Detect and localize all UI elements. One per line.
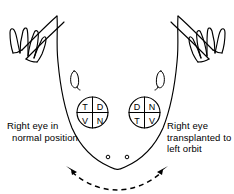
frog-eye-transplant-figure: T D V N D N T V Right [0,0,234,194]
right-forelimb [171,16,225,62]
rotation-arrow-head-left [66,166,77,175]
eye-normal-quadrant-bottom-right: N [97,116,104,126]
eye-transplanted-quadrant-top-left: D [134,102,141,112]
caption-transplanted-line-3: left orbit [167,143,231,155]
left-forelimb [10,16,64,62]
caption-normal-line-1: Right eye in [7,120,78,132]
caption-normal-line-2: normal position [7,132,78,144]
eye-transplanted-quadrant-top-right: N [149,102,156,112]
eye-circle-normal: T D V N [77,97,108,128]
eye-transplanted-quadrant-bottom-left: T [134,116,140,126]
eye-normal-quadrant-bottom-left: V [82,116,88,126]
caption-transplanted: Right eye transplanted to left orbit [167,120,231,155]
right-nare-mark [155,71,164,90]
eye-normal-quadrant-top-left: T [82,102,88,112]
nostril-left-dot [106,155,110,159]
eye-circle-transplanted: D N T V [129,97,160,128]
left-nare-mark [71,71,80,90]
rotation-arrow-head-right [157,166,168,175]
frog-head-line-drawing: T D V N D N T V [0,0,234,194]
nostril-right-dot [125,155,129,159]
caption-normal-position: Right eye in normal position [7,120,78,143]
nostril-dots [106,155,129,159]
eye-transplanted-quadrant-bottom-right: V [149,116,155,126]
caption-transplanted-line-1: Right eye [167,120,231,132]
head-outline [57,16,178,170]
caption-transplanted-line-2: transplanted to [167,132,231,144]
eye-normal-quadrant-top-right: D [97,102,104,112]
